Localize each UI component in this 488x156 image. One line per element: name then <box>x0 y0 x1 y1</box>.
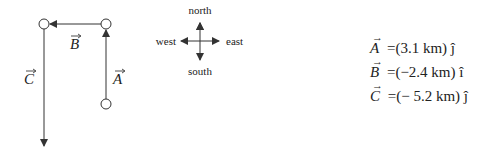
equation-b: →B =(−2.4 km) î <box>370 64 463 81</box>
equation-c-symbol: →C <box>370 88 380 105</box>
equation-c: →C =(− 5.2 km) ĵ <box>370 88 468 105</box>
vector-arrow-icon: → <box>372 55 383 67</box>
equation-c-equals: = <box>388 88 396 104</box>
compass-east-label: east <box>226 35 243 47</box>
point-ab <box>101 19 111 29</box>
equation-c-value: (− 5.2 km) <box>396 88 460 104</box>
compass-west-label: west <box>156 35 176 47</box>
label-c-text: C <box>24 71 35 87</box>
point-bc <box>39 19 49 29</box>
compass-south-label: south <box>188 65 212 77</box>
label-a-text: A <box>112 71 123 87</box>
label-c: C <box>24 69 36 87</box>
label-b-text: B <box>70 36 79 52</box>
label-a: A <box>112 69 125 87</box>
label-b: B <box>70 34 81 52</box>
compass-north-label: north <box>188 4 212 16</box>
compass: north south west east <box>156 4 243 77</box>
equation-a-value: (3.1 km) <box>395 40 447 56</box>
vector-diagram: B A C north south west east <box>0 0 340 156</box>
equation-b-unit-vector: î <box>459 64 463 80</box>
point-start <box>101 99 111 109</box>
equation-a-unit-vector: ĵ <box>451 40 455 56</box>
vector-arrow-icon: → <box>372 79 383 91</box>
equation-b-value: (−2.4 km) <box>395 64 455 80</box>
equation-c-unit-vector: ĵ <box>464 88 468 104</box>
vector-arrow-icon: → <box>372 31 383 43</box>
